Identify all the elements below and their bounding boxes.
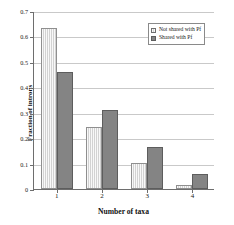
y-tick-mark [30, 12, 34, 13]
legend-item: Shared with Pf [151, 34, 201, 42]
gridline [34, 63, 214, 64]
bar-4-series-0 [176, 185, 192, 189]
y-tick-mark [30, 37, 34, 38]
y-tick-mark [30, 63, 34, 64]
x-tick-label: 4 [191, 193, 195, 200]
bar-3-series-1 [147, 147, 163, 189]
bar-3-series-0 [131, 163, 147, 189]
x-axis-title: Number of taxa [33, 207, 214, 216]
y-tick-mark [30, 139, 34, 140]
bar-1-series-1 [57, 72, 73, 189]
y-tick-label: 0.2 [20, 136, 28, 142]
gridline [34, 12, 214, 13]
x-tick-label: 3 [145, 193, 149, 200]
y-tick-mark [30, 88, 34, 89]
y-tick-mark [30, 190, 34, 191]
y-tick-label: 0 [25, 187, 28, 193]
y-tick-label: 0.5 [20, 60, 28, 66]
y-tick-label: 0.7 [20, 9, 28, 15]
x-tick-label: 1 [55, 193, 59, 200]
bar-2-series-0 [86, 127, 102, 189]
bar-4-series-1 [192, 174, 208, 189]
y-tick-label: 0.1 [20, 161, 28, 167]
legend-swatch-icon [151, 36, 156, 41]
bar-chart: Fraction of introns 00.10.20.30.40.50.60… [0, 0, 234, 225]
legend-label: Not shared with Pf [159, 27, 201, 33]
legend-label: Shared with Pf [159, 35, 192, 41]
bar-2-series-1 [102, 110, 118, 189]
y-tick-label: 0.3 [20, 111, 28, 117]
y-tick-label: 0.6 [20, 34, 28, 40]
y-tick-mark [30, 165, 34, 166]
y-tick-mark [30, 114, 34, 115]
chart-legend: Not shared with PfShared with Pf [148, 23, 205, 45]
legend-swatch-icon [151, 28, 156, 33]
bar-1-series-0 [41, 28, 57, 189]
legend-item: Not shared with Pf [151, 26, 201, 34]
x-tick-label: 2 [100, 193, 104, 200]
y-tick-label: 0.4 [20, 85, 28, 91]
